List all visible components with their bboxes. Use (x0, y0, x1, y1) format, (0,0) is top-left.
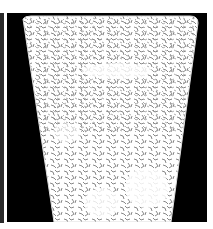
vessel-image (7, 13, 207, 222)
left-image-strip (0, 13, 4, 223)
image-frame (7, 13, 207, 222)
